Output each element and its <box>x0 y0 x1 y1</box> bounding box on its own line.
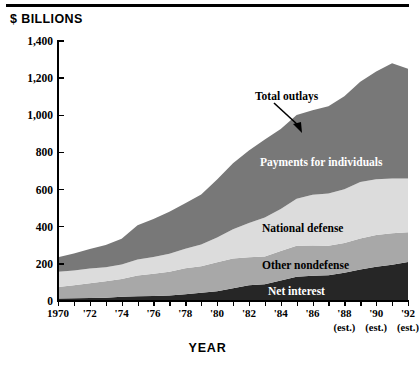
y-tick-label: 800 <box>36 146 53 158</box>
x-tick-mark <box>297 300 298 306</box>
series-label-payments: Payments for individuals <box>260 156 382 168</box>
x-tick-mark <box>90 300 91 306</box>
x-tick-label: '84 <box>274 307 288 319</box>
y-tick-label: 1,200 <box>27 72 53 84</box>
y-tick-mark <box>57 40 64 41</box>
y-tick-label: 600 <box>36 184 53 196</box>
x-tick-mark <box>281 300 282 306</box>
x-tick-mark <box>344 300 345 306</box>
x-tick-mark <box>392 300 393 306</box>
x-tick-label: '86 <box>306 307 320 319</box>
x-axis-title: YEAR <box>0 341 415 355</box>
x-tick-mark <box>74 300 75 306</box>
x-tick-mark <box>58 300 59 306</box>
x-tick-label: '76 <box>146 307 160 319</box>
y-tick-mark <box>57 77 64 78</box>
series-label-net-interest: Net interest <box>268 285 325 297</box>
x-tick-label: '82 <box>242 307 256 319</box>
x-tick-label: '80 <box>210 307 224 319</box>
plot-area <box>58 41 408 301</box>
x-tick-estimate-note: (est.) <box>365 322 387 333</box>
y-tick-mark <box>57 226 64 227</box>
x-tick-label: '74 <box>115 307 129 319</box>
x-tick-mark <box>106 300 107 306</box>
x-tick-mark <box>360 300 361 306</box>
series-label-national-defense: National defense <box>262 222 343 234</box>
annotation-arrow-icon <box>272 101 312 137</box>
x-tick-estimate-note: (est.) <box>333 322 355 333</box>
x-tick-mark <box>201 300 202 306</box>
x-tick-mark <box>233 300 234 306</box>
y-tick-mark <box>57 115 64 116</box>
stacked-area-svg <box>58 41 408 301</box>
x-tick-mark <box>153 300 154 306</box>
x-tick-mark <box>217 300 218 306</box>
y-tick-mark <box>57 152 64 153</box>
y-tick-mark <box>57 189 64 190</box>
x-tick-mark <box>185 300 186 306</box>
x-tick-label: '92 <box>401 307 415 319</box>
x-tick-mark <box>249 300 250 306</box>
x-tick-mark <box>408 300 409 306</box>
y-tick-label: 1,000 <box>27 109 53 121</box>
x-tick-label: '72 <box>83 307 97 319</box>
header-rule <box>6 4 409 7</box>
series-label-other-nondefense: Other nondefense <box>262 259 349 271</box>
y-tick-mark <box>57 263 64 264</box>
x-tick-label: '90 <box>369 307 383 319</box>
x-tick-mark <box>169 300 170 306</box>
y-axis-ticks: 02004006008001,0001,2001,400 <box>0 0 53 365</box>
x-tick-label: '88 <box>337 307 351 319</box>
x-tick-estimate-note: (est.) <box>397 322 419 333</box>
x-tick-mark <box>376 300 377 306</box>
x-tick-label: '78 <box>178 307 192 319</box>
y-tick-label: 1,400 <box>27 35 53 47</box>
x-tick-mark <box>328 300 329 306</box>
x-tick-mark <box>122 300 123 306</box>
x-tick-mark <box>265 300 266 306</box>
x-tick-label: 1970 <box>47 307 69 319</box>
y-tick-label: 200 <box>36 258 53 270</box>
x-tick-mark <box>138 300 139 306</box>
y-tick-label: 400 <box>36 221 53 233</box>
y-tick-label: 0 <box>47 295 53 307</box>
x-tick-mark <box>313 300 314 306</box>
